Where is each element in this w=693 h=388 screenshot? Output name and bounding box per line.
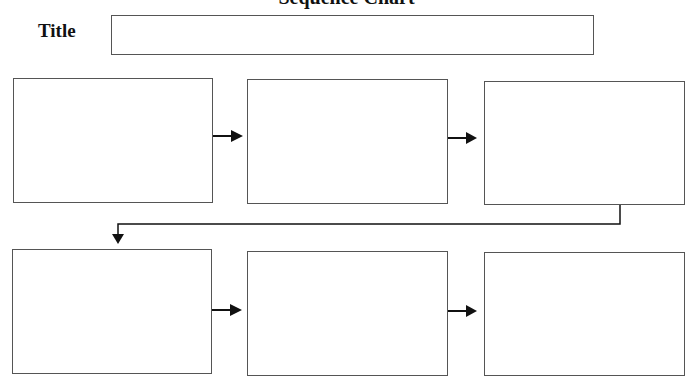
arrow-right-icon-2-3 [448,132,477,144]
arrow-right-icon-1-2 [213,130,243,142]
arrow-right-icon-5-6 [448,305,477,317]
arrow-right-icon-4-5 [212,304,242,316]
connector-layer [0,0,693,388]
wrap-arrow-icon-3-4 [112,205,620,244]
